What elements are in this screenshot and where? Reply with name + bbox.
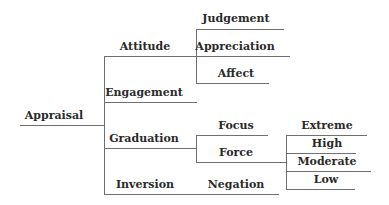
node-graduation: Graduation: [109, 132, 179, 145]
node-low: Low: [314, 173, 339, 186]
focus-line: [196, 135, 268, 136]
force-bracket: [286, 135, 287, 190]
judgement-line: [196, 29, 284, 30]
moderate-line: [286, 171, 371, 172]
node-negation: Negation: [208, 178, 264, 191]
node-attitude: Attitude: [120, 40, 170, 53]
inversion-line: [104, 194, 279, 195]
node-appraisal: Appraisal: [25, 109, 84, 122]
node-force: Force: [219, 146, 253, 159]
graduation-line: [104, 148, 196, 149]
node-appreciation: Appreciation: [195, 40, 274, 53]
attitude-line: [104, 56, 196, 57]
node-high: High: [312, 137, 342, 150]
force-line: [196, 162, 287, 163]
node-engagement: Engagement: [105, 86, 183, 99]
appraisal-line: [20, 125, 105, 126]
high-line: [286, 153, 356, 154]
node-extreme: Extreme: [301, 119, 352, 132]
node-affect: Affect: [218, 67, 254, 80]
graduation-bracket: [196, 135, 197, 163]
node-focus: Focus: [218, 119, 253, 132]
affect-line: [196, 83, 269, 84]
low-line: [286, 189, 355, 190]
node-inversion: Inversion: [116, 178, 174, 191]
extreme-line: [286, 135, 367, 136]
main-bracket: [104, 56, 105, 195]
appraisal-tree-diagram: Appraisal Attitude Engagement Graduation…: [0, 0, 389, 205]
node-moderate: Moderate: [297, 155, 356, 168]
appreciation-line: [196, 56, 290, 57]
engagement-line: [104, 102, 197, 103]
node-judgement: Judgement: [202, 12, 269, 25]
